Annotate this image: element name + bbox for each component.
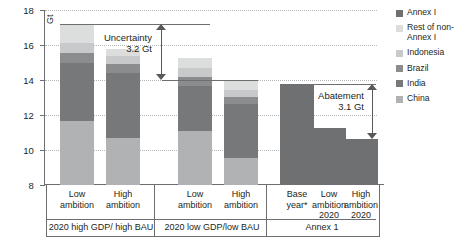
bar-segment <box>178 77 212 87</box>
legend-swatch-icon <box>396 80 403 87</box>
bar-segment <box>224 104 258 158</box>
abatement-top-rule <box>280 84 376 85</box>
bar-segment <box>224 90 258 97</box>
legend-label: Annex I <box>407 8 436 18</box>
bar-segment <box>106 73 140 138</box>
bar-segment <box>60 63 94 121</box>
y-axis-tick-label: 8 <box>0 180 34 191</box>
legend-item[interactable]: China <box>396 94 464 104</box>
legend-item[interactable]: India <box>396 79 464 89</box>
bar-segment <box>224 158 258 185</box>
y-axis-tick-label: 16 <box>0 40 34 51</box>
legend-item[interactable]: Indonesia <box>396 48 464 58</box>
y-axis-tick-label: 12 <box>0 110 34 121</box>
bar-segment <box>178 131 212 185</box>
legend-swatch-icon <box>396 96 403 103</box>
bar-segment <box>224 97 258 104</box>
y-axis-tick <box>40 45 45 46</box>
bar-segment <box>312 128 346 185</box>
legend-item[interactable]: Rest of non-Annex I <box>396 23 464 43</box>
legend-swatch-icon <box>396 10 403 17</box>
y-axis-tick <box>40 115 45 116</box>
y-axis-tick <box>40 10 45 11</box>
chart-figure: Gt Uncertainty 3.2 Gt Abatement 3.1 Gt <box>0 0 467 240</box>
group-divider <box>156 219 268 220</box>
bar[interactable] <box>344 139 378 185</box>
bar-segment <box>224 80 258 90</box>
uncertainty-arrow <box>156 24 167 80</box>
plot-area: Gt Uncertainty 3.2 Gt Abatement 3.1 Gt <box>44 10 384 185</box>
legend-label: China <box>407 94 429 104</box>
legend-swatch-icon <box>396 65 403 72</box>
legend-swatch-icon <box>396 50 403 57</box>
uncertainty-title: Uncertainty <box>104 32 152 43</box>
bar-segment <box>178 68 212 77</box>
bar-segment <box>178 58 212 68</box>
y-axis-tick-label: 18 <box>0 5 34 16</box>
gridline <box>45 10 377 11</box>
y-axis-line <box>44 10 45 185</box>
bar[interactable] <box>312 128 346 185</box>
bar-segment <box>60 121 94 185</box>
abatement-arrow <box>367 84 378 138</box>
legend-label: Brazil <box>407 64 429 74</box>
group-label: Annex 1 <box>268 222 376 233</box>
arrow-shaft <box>372 87 373 135</box>
bar-segment <box>106 138 140 185</box>
bar[interactable] <box>224 80 258 185</box>
legend-label: Indonesia <box>407 48 444 58</box>
legend-label: India <box>407 79 426 89</box>
y-axis-tick-label: 10 <box>0 145 34 156</box>
arrow-down-head-icon <box>367 133 377 139</box>
bar-segment <box>178 86 212 131</box>
group-divider <box>268 219 376 220</box>
legend-label: Rest of non-Annex I <box>407 23 464 43</box>
bar-segment <box>106 64 140 73</box>
uncertainty-top-rule <box>60 24 210 25</box>
bar-segment <box>60 53 94 64</box>
abatement-bottom-rule <box>344 139 376 140</box>
arrow-down-head-icon <box>156 74 166 80</box>
group-label: 2020 low GDP/low BAU <box>156 222 268 233</box>
uncertainty-bottom-rule <box>162 80 258 81</box>
group-label: 2020 high GDP/ high BAU <box>46 222 156 233</box>
bar-segment <box>106 56 140 64</box>
uncertainty-value: 3.2 Gt <box>126 43 152 54</box>
abatement-value: 3.1 Gt <box>338 101 364 112</box>
y-axis-tick <box>40 80 45 81</box>
legend-swatch-icon <box>396 25 403 32</box>
bar[interactable] <box>106 49 140 186</box>
arrow-shaft <box>161 27 162 77</box>
y-axis-tick-label: 14 <box>0 75 34 86</box>
bar[interactable] <box>178 58 212 185</box>
y-axis-tick <box>40 150 45 151</box>
y-axis-unit: Gt <box>45 14 55 24</box>
abatement-title: Abatement <box>318 90 364 101</box>
uncertainty-label: Uncertainty 3.2 Gt <box>74 32 152 54</box>
y-axis-tick <box>40 185 45 186</box>
group-divider <box>46 219 156 220</box>
bar-segment <box>344 139 378 185</box>
legend-item[interactable]: Brazil <box>396 64 464 74</box>
legend: Annex IRest of non-Annex IIndonesiaBrazi… <box>396 8 464 110</box>
abatement-label: Abatement 3.1 Gt <box>284 90 364 112</box>
legend-item[interactable]: Annex I <box>396 8 464 18</box>
